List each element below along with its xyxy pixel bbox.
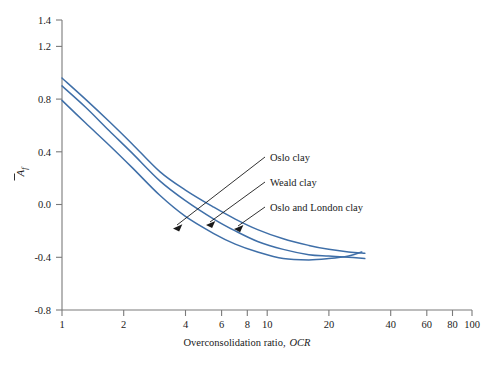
annotation-label-weald-clay: Weald clay [270, 177, 317, 188]
x-tick-label: 8 [245, 319, 250, 330]
annotation-label-oslo-clay: Oslo clay [270, 152, 311, 163]
leader-line-weald-clay [210, 182, 265, 222]
x-tick-label: 10 [262, 319, 273, 330]
leader-line-oslo-and-london-clay [238, 207, 265, 226]
y-tick-label: -0.4 [34, 252, 51, 263]
curve-group [62, 78, 365, 260]
curve-oslo-and-london-clay [62, 100, 362, 260]
y-tick-label: 1.4 [38, 15, 52, 26]
x-tick-label: 20 [324, 319, 335, 330]
x-tick-group: 1 2 4 6 8 10 20 40 60 80 100 [59, 310, 480, 330]
x-tick-label: 40 [385, 319, 396, 330]
x-tick-label: 6 [219, 319, 224, 330]
annotation-leaders [173, 157, 265, 232]
y-tick-label: 0.0 [38, 199, 51, 210]
figure-container: 1.4 1.2 0.8 0.4 0.0 -0.4 -0.8 Af [0, 0, 484, 368]
curve-oslo-clay [62, 78, 365, 253]
arrowhead-oslo-clay [173, 224, 182, 231]
x-axis-title-italic: OCR [290, 337, 312, 348]
leader-line-oslo-clay [177, 157, 265, 225]
x-axis-title: Overconsolidation ratio,OCR [183, 337, 311, 348]
x-tick-label: 4 [183, 319, 189, 330]
y-tick-group: 1.4 1.2 0.8 0.4 0.0 -0.4 -0.8 [34, 15, 62, 316]
y-tick-label: 1.2 [38, 41, 51, 52]
annotation-label-oslo-and-london-clay: Oslo and London clay [270, 202, 364, 213]
y-axis-title: Af [14, 166, 29, 181]
chart-svg: 1.4 1.2 0.8 0.4 0.0 -0.4 -0.8 Af [0, 0, 484, 368]
x-tick-label: 60 [422, 319, 433, 330]
x-tick-label: 100 [464, 319, 480, 330]
x-tick-label: 80 [447, 319, 458, 330]
svg-text:Af: Af [14, 166, 29, 178]
y-tick-label: 0.4 [38, 147, 52, 158]
y-axis-title-subscript: f [20, 166, 29, 170]
x-tick-label: 2 [121, 319, 126, 330]
x-axis-title-plain: Overconsolidation ratio, [183, 337, 285, 348]
y-tick-label: -0.8 [34, 305, 51, 316]
y-tick-label: 0.8 [38, 94, 51, 105]
x-tick-label: 1 [59, 319, 64, 330]
